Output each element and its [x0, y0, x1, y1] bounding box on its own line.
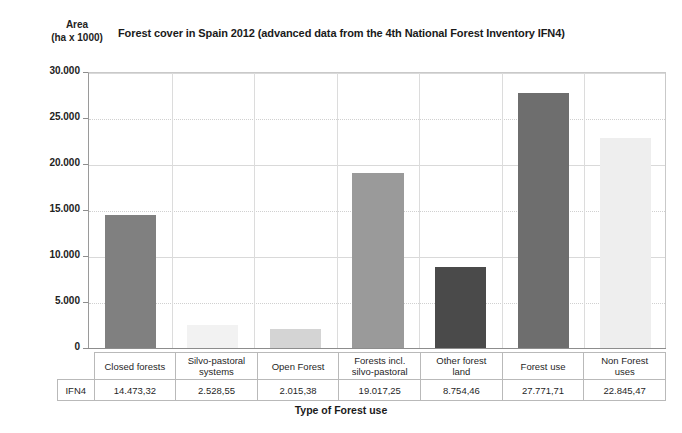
table-column-header-line1: Forest use [521, 361, 566, 372]
y-axis-title-line2: (ha x 1000) [22, 31, 132, 44]
table-column-header: Open Forest [257, 353, 339, 380]
bar [270, 329, 321, 348]
bar [105, 215, 156, 348]
bar [600, 138, 651, 348]
table-value-cell: 19.017,25 [339, 380, 421, 401]
table-column-header-line1: Closed forests [104, 361, 165, 372]
bar-series [89, 73, 665, 348]
y-axis-tick-mark [83, 348, 88, 349]
x-axis-line [88, 348, 666, 349]
table-column-header-line1: Open Forest [272, 361, 325, 372]
table-column-header: Other forestland [421, 353, 503, 380]
table-row-label: IFN4 [58, 380, 95, 401]
table-value-cell: 27.771,71 [502, 380, 584, 401]
y-axis-title: Area (ha x 1000) [22, 18, 132, 44]
chart-title: Forest cover in Spain 2012 (advanced dat… [118, 26, 670, 40]
table-header-row: Closed forestsSilvo-pastoralsystemsOpen … [58, 353, 666, 380]
table-column-header-line2: silvo-pastoral [352, 366, 408, 377]
y-axis-tick-label: 5.000 [24, 295, 80, 306]
x-axis-title: Type of Forest use [0, 404, 682, 416]
table-column-header: Silvo-pastoralsystems [176, 353, 258, 380]
y-axis-tick-label: 10.000 [24, 249, 80, 260]
bar [187, 325, 238, 348]
table-value-cell: 14.473,32 [94, 380, 176, 401]
table-value-cell: 22.845,47 [584, 380, 666, 401]
y-axis-tick-label: 0 [24, 341, 80, 352]
table-value-row: IFN4 14.473,322.528,552.015,3819.017,258… [58, 380, 666, 401]
y-axis-tick-label: 25.000 [24, 111, 80, 122]
table-value-cell: 2.015,38 [257, 380, 339, 401]
data-table: Closed forestsSilvo-pastoralsystemsOpen … [57, 352, 666, 396]
bar [435, 267, 486, 348]
chart-page: Area (ha x 1000) Forest cover in Spain 2… [0, 0, 682, 433]
y-axis-tick-labels: 05.00010.00015.00020.00025.00030.000 [18, 72, 80, 348]
table-column-header: Non Forestuses [584, 353, 666, 380]
y-axis-tick-mark [83, 256, 88, 257]
plot-area [88, 72, 666, 348]
bar [352, 173, 403, 348]
y-axis-tick-label: 30.000 [24, 65, 80, 76]
table-column-header-line2: land [452, 366, 470, 377]
table-column-header-line1: Non Forest [601, 355, 648, 366]
table-corner-cell [58, 353, 95, 380]
y-axis-title-line1: Area [22, 18, 132, 31]
table-column-header-line2: systems [199, 366, 234, 377]
y-axis-tick-label: 20.000 [24, 157, 80, 168]
y-axis-tick-mark [83, 164, 88, 165]
table-column-header-line1: Other forest [436, 355, 486, 366]
table-column-header: Forests incl.silvo-pastoral [339, 353, 421, 380]
y-axis-tick-mark [83, 210, 88, 211]
table-column-header-line1: Silvo-pastoral [188, 355, 246, 366]
table-column-header: Closed forests [94, 353, 176, 380]
y-axis-tick-label: 15.000 [24, 203, 80, 214]
y-axis-tick-mark [83, 302, 88, 303]
y-axis-tick-mark [83, 72, 88, 73]
y-axis-tick-mark [83, 118, 88, 119]
table-column-header-line2: uses [615, 366, 635, 377]
bar [518, 93, 569, 348]
table-value-cell: 8.754,46 [421, 380, 503, 401]
table-column-header-line1: Forests incl. [354, 355, 405, 366]
table-column-header: Forest use [502, 353, 584, 380]
table-value-cell: 2.528,55 [176, 380, 258, 401]
